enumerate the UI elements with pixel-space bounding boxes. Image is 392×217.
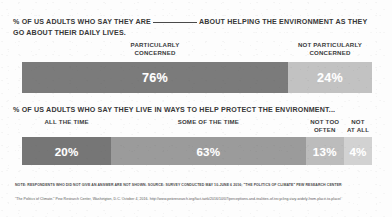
- infographic-page: % OF US ADULTS WHO SAY THEY AREABOUT HEL…: [0, 0, 392, 217]
- segment-label-not-at-all: NOT AT ALL: [344, 118, 372, 135]
- bar-segment-value: 24%: [317, 71, 343, 85]
- bar-segment-not-at-all: 4%: [344, 137, 372, 165]
- question-2-title: % OF US ADULTS WHO SAY THEY LIVE IN WAYS…: [13, 105, 379, 116]
- bar-segment-not-particularly-concerned: 24%: [288, 62, 372, 93]
- segment-label-particularly-concerned: PARTICULARLY CONCERNED: [22, 41, 288, 58]
- chart-source-citation: "The Politics of Climate." Pew Research …: [15, 197, 380, 202]
- question-2-segment-labels: ALL THE TIME SOME OF THE TIME NOT TOO OF…: [22, 118, 372, 138]
- bar-segment-value: 13%: [313, 145, 337, 158]
- segment-label-some-of-the-time: SOME OF THE TIME: [111, 118, 305, 126]
- segment-label-line-1: NOT TOO: [306, 118, 345, 126]
- question-2-stacked-bar: 20% 63% 13% 4%: [22, 137, 372, 165]
- segment-label-line-1: ALL THE TIME: [22, 118, 111, 126]
- segment-label-line-2: CONCERNED: [22, 49, 288, 57]
- fill-in-blank-rule: [153, 22, 197, 23]
- segment-label-all-the-time: ALL THE TIME: [22, 118, 111, 126]
- bar-segment-value: 20%: [55, 145, 79, 158]
- question-1-stacked-bar: 76% 24%: [22, 62, 372, 93]
- segment-label-line-2: AT ALL: [344, 126, 372, 134]
- bar-segment-particularly-concerned: 76%: [22, 62, 288, 93]
- question-1-title: % OF US ADULTS WHO SAY THEY AREABOUT HEL…: [13, 17, 379, 38]
- segment-label-line-2: OFTEN: [306, 126, 345, 134]
- question-1-segment-labels: PARTICULARLY CONCERNED NOT PARTICULARLY …: [22, 41, 372, 61]
- bar-segment-all-the-time: 20%: [22, 137, 111, 165]
- bar-segment-some-of-the-time: 63%: [111, 137, 305, 165]
- bar-segment-value: 63%: [196, 145, 220, 158]
- bar-segment-not-too-often: 13%: [306, 137, 345, 165]
- segment-label-not-too-often: NOT TOO OFTEN: [306, 118, 345, 135]
- segment-label-line-1: NOT: [344, 118, 372, 126]
- segment-label-not-particularly-concerned: NOT PARTICULARLY CONCERNED: [288, 41, 372, 58]
- segment-label-line-1: PARTICULARLY: [22, 41, 288, 49]
- bar-segment-value: 76%: [142, 71, 168, 85]
- segment-label-line-1: NOT PARTICULARLY: [288, 41, 372, 49]
- chart-note: NOTE: RESPONDENTS WHO DID NOT GIVE AN AN…: [15, 183, 380, 188]
- question-1-title-part-1: % OF US ADULTS WHO SAY THEY ARE: [13, 18, 151, 26]
- segment-label-line-1: SOME OF THE TIME: [111, 118, 305, 126]
- segment-label-line-2: CONCERNED: [288, 49, 372, 57]
- bar-segment-value: 4%: [349, 145, 366, 158]
